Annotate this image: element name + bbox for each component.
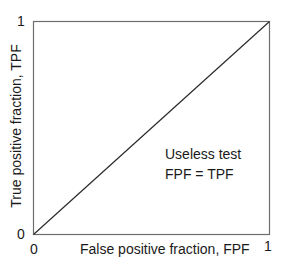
y-tick-1: 1 xyxy=(17,14,25,28)
annotation-useless-test: Useless test xyxy=(165,147,241,161)
annotation-fpf-equals-tpf: FPF = TPF xyxy=(165,167,234,181)
y-axis-label: True positive fraction, TPF xyxy=(9,31,23,221)
plot-area xyxy=(0,0,285,266)
x-axis-label: False positive fraction, FPF xyxy=(80,242,250,256)
x-tick-0: 0 xyxy=(30,242,38,256)
diagonal-line xyxy=(34,22,270,235)
x-tick-1: 1 xyxy=(264,239,272,253)
y-tick-0: 0 xyxy=(17,227,25,241)
